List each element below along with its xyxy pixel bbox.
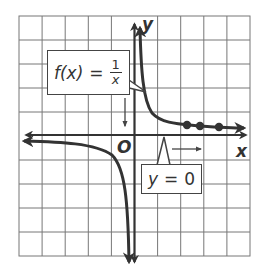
x-axis-label: x: [236, 141, 247, 161]
function-label: f(x) = 1 x: [47, 50, 130, 95]
fraction-denominator: x: [112, 73, 120, 87]
point-marker: [196, 122, 204, 130]
asymptote-label: y = 0: [141, 164, 202, 194]
asymptote-variable: y: [148, 169, 158, 189]
highlighted-points: [183, 121, 223, 131]
asymptote-callout-pointer: [157, 137, 170, 165]
point-marker: [215, 123, 223, 131]
fraction: 1 x: [110, 58, 122, 87]
curve-negative-branch: [24, 141, 129, 262]
point-marker: [183, 121, 191, 129]
function-name: f(x): [54, 63, 83, 83]
curve-positive-branch: [140, 28, 244, 128]
origin-label: O: [117, 137, 131, 157]
equals-sign: =: [164, 169, 178, 189]
asymptote-value: 0: [184, 169, 195, 189]
equals-sign: =: [89, 63, 103, 83]
coordinate-graph: [0, 0, 268, 272]
fraction-numerator: 1: [110, 58, 122, 73]
y-axis-label: y: [142, 14, 153, 34]
